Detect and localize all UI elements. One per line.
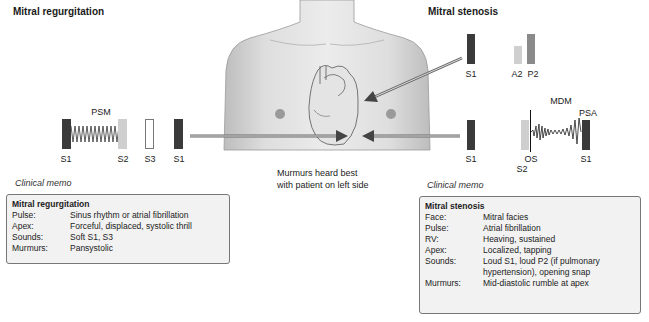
ms-clinical-memo: Mitral stenosis Face:Mitral facies Pulse… [419,196,641,314]
memo-row: Apex:Localized, tapping [425,245,635,256]
memo-row: RV:Heaving, sustained [425,234,635,245]
memo-row: Pulse:Atrial fibrillation [425,223,635,234]
ms-p2-label: P2 [523,69,543,79]
ms-s1-bar [467,120,475,150]
ms-memo-label: Clinical memo [427,180,484,190]
ms-top-s1-bar [467,34,475,64]
mdm-label: MDM [546,96,576,106]
memo-row: Face:Mitral facies [425,212,635,223]
ms-s2-label: S2 [511,164,533,174]
ms-s1-right-bar [582,120,590,150]
memo-row: Murmurs:Mid-diastolic rumble at apex [425,278,635,289]
ms-title: Mitral stenosis [428,6,498,17]
ms-s2-bar [521,120,529,150]
ms-s1-label: S1 [460,154,482,164]
ms-memo-title: Mitral stenosis [425,201,635,212]
center-caption: Murmurs heard best with patient on left … [277,167,369,191]
ms-s1-right-label: S1 [575,154,597,164]
ms-top-s1-label: S1 [460,69,482,79]
ms-a2-bar [514,46,522,64]
ms-p2-bar [527,34,535,64]
os-label: OS [520,154,542,164]
memo-row: Sounds:Loud S1, loud P2 (if pulmonary hy… [425,256,635,278]
mdm-murmur-wave [531,112,583,152]
